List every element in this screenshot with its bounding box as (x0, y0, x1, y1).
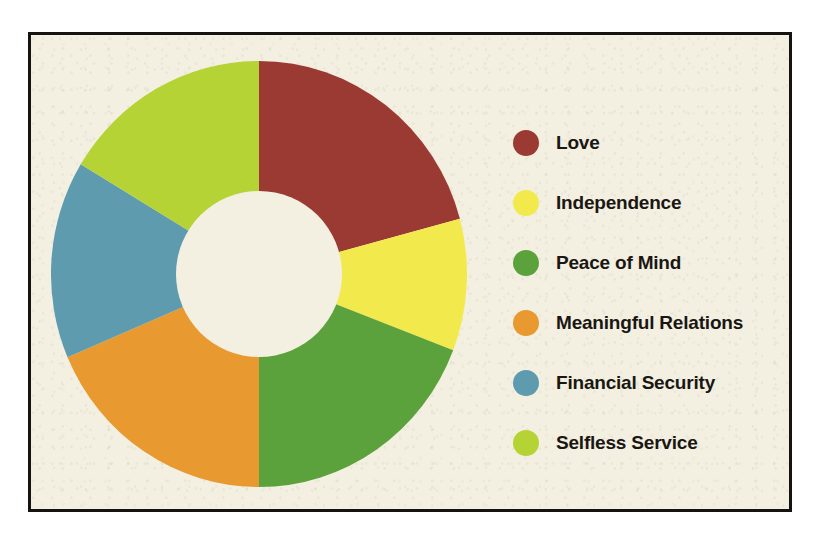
legend-swatch-icon (513, 430, 539, 456)
page-root: Love Independence Peace of Mind Meaningf… (0, 0, 825, 546)
legend-item-love[interactable]: Love (513, 125, 783, 161)
legend-label: Selfless Service (556, 432, 698, 454)
legend-label: Independence (556, 192, 681, 214)
legend-item-selfless-service[interactable]: Selfless Service (513, 425, 783, 461)
donut-center-hole (176, 191, 342, 357)
legend-swatch-icon (513, 310, 539, 336)
legend-item-financial-security[interactable]: Financial Security (513, 365, 783, 401)
donut-chart-svg (51, 61, 467, 487)
legend-swatch-icon (513, 130, 539, 156)
chart-legend: Love Independence Peace of Mind Meaningf… (513, 125, 783, 461)
legend-label: Financial Security (556, 372, 715, 394)
legend-label: Love (556, 132, 600, 154)
legend-item-peace-of-mind[interactable]: Peace of Mind (513, 245, 783, 281)
donut-chart (51, 61, 467, 487)
legend-item-independence[interactable]: Independence (513, 185, 783, 221)
legend-label: Meaningful Relations (556, 312, 743, 334)
legend-swatch-icon (513, 370, 539, 396)
legend-label: Peace of Mind (556, 252, 681, 274)
legend-swatch-icon (513, 250, 539, 276)
figure-panel: Love Independence Peace of Mind Meaningf… (28, 32, 792, 512)
legend-swatch-icon (513, 190, 539, 216)
legend-item-meaningful-relations[interactable]: Meaningful Relations (513, 305, 783, 341)
